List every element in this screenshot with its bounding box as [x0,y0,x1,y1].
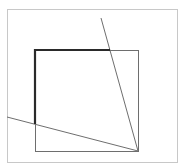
inner-square [36,51,139,152]
bold-corner-path [35,50,110,124]
geometry-diagram [0,0,185,166]
steep-line [101,18,138,151]
shallow-line [7,117,138,151]
